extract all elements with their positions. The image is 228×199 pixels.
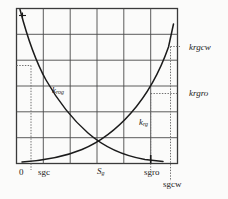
curve-label-krg: krg: [139, 118, 148, 127]
x-label-origin: 0: [19, 168, 24, 177]
x-label-sg-subscript: g: [102, 170, 105, 176]
relative-permeability-figure: krog krg krgcw krgro 0 sgc Sg sgro sgcw: [0, 0, 228, 199]
curve-label-krog: krog: [52, 86, 64, 95]
right-label-krgro: krgro: [189, 89, 208, 98]
x-label-sgro: sgro: [144, 168, 160, 177]
curve-label-krog-subscript: rog: [56, 89, 64, 95]
x-label-sgcw: sgcw: [163, 180, 182, 189]
right-label-krgcw: krgcw: [189, 43, 211, 52]
x-label-sg: Sg: [97, 167, 105, 176]
plot-canvas: [0, 0, 228, 199]
curve-label-krg-subscript: rg: [143, 121, 148, 127]
curve-krog: [20, 10, 163, 162]
x-label-sgc: sgc: [38, 168, 50, 177]
